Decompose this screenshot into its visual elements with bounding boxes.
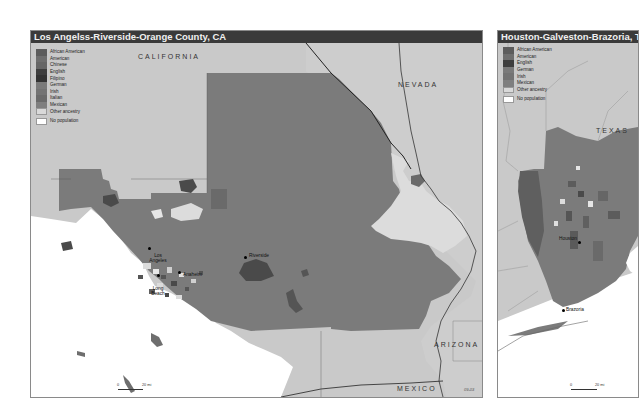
legend-item: Chinese [36, 62, 85, 69]
scale-end-label: 20 mi [142, 383, 151, 387]
legend-swatch [503, 67, 514, 74]
legend-swatch [503, 54, 514, 61]
legend-swatch [503, 73, 514, 80]
legend-item: No population [503, 96, 552, 103]
ancestry-patch [211, 189, 227, 209]
city-marker-los-angeles [148, 247, 151, 250]
legend-item: German [503, 67, 552, 74]
legend-swatch [36, 108, 47, 115]
city-marker-brazoria [562, 309, 565, 312]
map-panel-houston: Houston-Galveston-Brazoria, TX [497, 30, 639, 398]
legend-label: African American [50, 49, 85, 55]
legend-item: English [36, 69, 85, 76]
legend-label: Irish [50, 89, 59, 95]
map-legend: African American American Chinese Englis… [36, 49, 85, 125]
legend-swatch [503, 80, 514, 87]
scale-start-label: 0 [117, 383, 119, 387]
legend-swatch [503, 87, 514, 94]
legend-item: Mexican [36, 102, 85, 109]
legend-label: German [50, 82, 67, 88]
state-label-california: CALIFORNIA [138, 53, 200, 60]
legend-item: Irish [36, 89, 85, 96]
legend-item: American [36, 56, 85, 63]
scale-start-label: 0 [570, 383, 572, 387]
legend-swatch [36, 102, 47, 109]
legend-item: African American [36, 49, 85, 56]
city-marker-houston [578, 241, 581, 244]
city-label-brazoria: Brazoria [566, 307, 584, 312]
scale-bar-line [118, 389, 143, 390]
legend-item: African American [503, 47, 552, 54]
state-label-nevada: NEVADA [398, 81, 438, 88]
legend-label: Mexican [517, 80, 534, 86]
legend-label: English [517, 60, 532, 66]
legend-label: Mexican [50, 102, 67, 108]
legend-label: No population [517, 96, 545, 102]
legend-label: English [50, 69, 65, 75]
legend-swatch [503, 96, 514, 103]
legend-item: Filipino [36, 75, 85, 82]
map-title: Houston-Galveston-Brazoria, TX [498, 31, 638, 43]
legend-label: Other ancestry [517, 87, 547, 93]
legend-item: Irish [503, 73, 552, 80]
legend-swatch [36, 118, 47, 125]
city-label-los-angeles: Los Angeles [147, 253, 169, 263]
city-marker-anaheim [178, 271, 181, 274]
city-label-houston: Houston [559, 236, 577, 241]
scale-bar: 0 20 mi [117, 383, 157, 393]
legend-item: Mexican [503, 80, 552, 87]
legend-item: English [503, 60, 552, 67]
legend-label: No population [50, 118, 78, 124]
legend-label: Irish [517, 74, 526, 80]
legend-item: Other ancestry [503, 87, 552, 94]
state-label-texas: TEXAS [596, 127, 629, 134]
legend-item: American [503, 54, 552, 61]
map-title: Los Angelss-Riverside-Orange County, CA [31, 31, 482, 43]
legend-label: Chinese [50, 62, 67, 68]
legend-swatch [36, 82, 47, 89]
legend-swatch [36, 56, 47, 63]
scale-bar: 0 20 mi [570, 383, 610, 393]
legend-label: Other ancestry [50, 109, 80, 115]
map-panel-los-angeles: Los Angelss-Riverside-Orange County, CA [30, 30, 483, 398]
legend-swatch [36, 89, 47, 96]
legend-swatch [36, 62, 47, 69]
legend-label: Italian [50, 95, 62, 101]
scale-bar-line [571, 389, 597, 390]
legend-item: Other ancestry [36, 108, 85, 115]
legend-swatch [36, 95, 47, 102]
state-label-arizona: ARIZONA [434, 341, 479, 348]
country-label-mexico: MEXICO [397, 385, 437, 392]
scale-end-label: 20 mi [595, 383, 604, 387]
legend-item: No population [36, 118, 85, 125]
city-marker-riverside [244, 256, 247, 259]
map-code: 09-03 [464, 387, 474, 392]
legend-swatch [503, 60, 514, 67]
legend-item: Italian [36, 95, 85, 102]
city-label-anaheim: Anaheim [183, 272, 202, 277]
map-legend: African American American English German… [503, 47, 552, 103]
legend-swatch [36, 49, 47, 56]
legend-swatch [36, 69, 47, 76]
legend-label: African American [517, 47, 552, 53]
legend-label: German [517, 67, 534, 73]
legend-label: American [517, 54, 536, 60]
legend-swatch [36, 75, 47, 82]
city-marker-long-beach [157, 274, 160, 277]
legend-label: Filipino [50, 76, 65, 82]
city-label-riverside: Riverside [249, 253, 269, 258]
legend-label: American [50, 56, 69, 62]
legend-swatch [503, 47, 514, 54]
legend-item: German [36, 82, 85, 89]
city-label-long-beach: Long Beach [149, 286, 167, 296]
